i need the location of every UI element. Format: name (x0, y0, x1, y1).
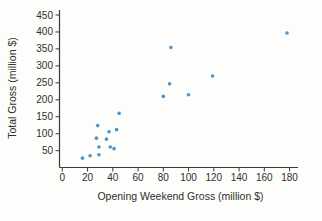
data-point (117, 112, 121, 116)
y-tick-label: 200 (36, 94, 53, 105)
data-point (112, 147, 116, 151)
x-tick-label: 100 (180, 172, 197, 183)
data-point (105, 137, 109, 141)
y-tick-label: 350 (36, 43, 53, 54)
x-tick-label: 0 (60, 172, 66, 183)
data-point (187, 93, 191, 97)
data-point (88, 154, 92, 158)
data-point (97, 153, 101, 157)
scatterplot-figure: 0204060801001201401601805010015020025030… (0, 0, 322, 221)
data-point (162, 95, 166, 99)
y-tick-label: 250 (36, 77, 53, 88)
scatter-plot: 0204060801001201401601805010015020025030… (0, 0, 322, 221)
data-point (96, 124, 100, 128)
x-tick-label: 120 (205, 172, 222, 183)
data-point (97, 145, 101, 149)
x-axis-title: Opening Weekend Gross (million $) (59, 190, 302, 202)
y-tick-label: 450 (36, 10, 53, 21)
x-tick-label: 160 (256, 172, 273, 183)
x-tick-label: 60 (132, 172, 144, 183)
data-point (115, 128, 119, 132)
x-tick-label: 140 (231, 172, 248, 183)
x-tick-label: 80 (158, 172, 170, 183)
y-tick-label: 400 (36, 26, 53, 37)
data-point (81, 156, 85, 160)
y-tick-label: 300 (36, 60, 53, 71)
data-point (95, 136, 99, 140)
x-tick-label: 40 (107, 172, 119, 183)
x-tick-label: 180 (281, 172, 298, 183)
data-point (211, 74, 215, 78)
y-tick-label: 50 (42, 145, 54, 156)
data-point (107, 130, 111, 134)
data-point (285, 31, 289, 35)
y-tick-label: 150 (36, 111, 53, 122)
y-axis-title: Total Gross (million $) (6, 37, 18, 139)
y-tick-label: 100 (36, 128, 53, 139)
data-point (108, 145, 112, 149)
data-point (168, 82, 172, 86)
data-point (169, 46, 173, 50)
x-tick-label: 20 (82, 172, 94, 183)
